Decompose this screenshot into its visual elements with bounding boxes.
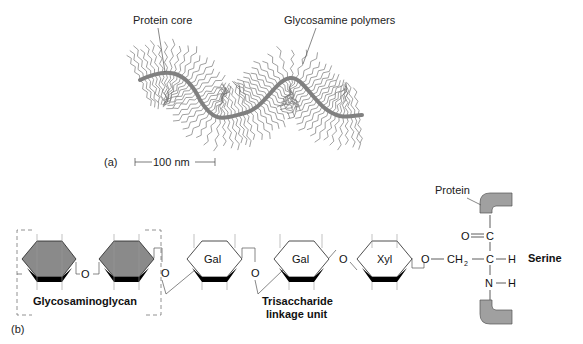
svg-text:H: H <box>508 253 516 265</box>
oxygen-link-2: O <box>161 267 170 279</box>
serine-label: Serine <box>528 252 562 264</box>
oxygen-serine: O <box>421 253 430 265</box>
sugar-ring-gal-2: Gal <box>274 234 329 290</box>
gag-ring-2 <box>99 234 154 290</box>
polymers-leader <box>303 28 316 64</box>
svg-text:O: O <box>461 230 470 242</box>
panel-a-label: (a) <box>104 156 117 168</box>
panel-a: Protein core Glycosamine polymers (a) 10… <box>104 14 396 168</box>
scale-bar-label: 100 nm <box>153 156 190 168</box>
sugar-ring-gal-1: Gal <box>187 234 242 290</box>
protein-block-top <box>480 193 512 213</box>
svg-text:Xyl: Xyl <box>377 253 392 265</box>
svg-text:Gal: Gal <box>292 253 309 265</box>
serine-structure: CH 2 C H C O N H <box>447 215 516 300</box>
protein-core-leader <box>158 28 165 72</box>
oxygen-link-3: O <box>251 267 260 279</box>
oxygen-link-4: O <box>339 253 348 265</box>
svg-text:N: N <box>485 277 493 289</box>
protein-leader <box>467 198 481 205</box>
trisaccharide-label-line2: linkage unit <box>266 308 327 320</box>
svg-text:C: C <box>486 230 494 242</box>
trisaccharide-label-line1: Trisaccharide <box>262 295 333 307</box>
svg-text:H: H <box>508 277 516 289</box>
sugar-ring-xyl: Xyl <box>357 234 412 290</box>
oxygen-link-1: O <box>81 268 90 280</box>
panel-b-label: (b) <box>11 323 24 335</box>
gag-ring-1 <box>22 234 76 290</box>
svg-text:CH: CH <box>447 253 463 265</box>
svg-text:2: 2 <box>464 260 468 267</box>
protein-block-bottom <box>480 300 512 324</box>
polymers-label: Glycosamine polymers <box>284 14 396 26</box>
glycosaminoglycan-label: Glycosaminoglycan <box>33 295 137 307</box>
panel-b: O O Gal O Gal O <box>11 184 562 335</box>
glycosamine-polymer-bristles <box>127 39 363 151</box>
protein-core-label: Protein core <box>133 14 192 26</box>
svg-text:C: C <box>486 253 494 265</box>
svg-text:Gal: Gal <box>204 253 221 265</box>
protein-label: Protein <box>435 184 470 196</box>
proteoglycan-diagram: Protein core Glycosamine polymers (a) 10… <box>0 0 583 344</box>
